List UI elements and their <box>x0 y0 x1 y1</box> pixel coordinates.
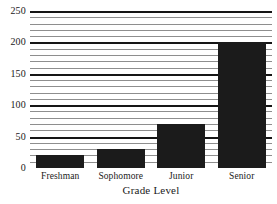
bar <box>36 155 84 168</box>
bar <box>157 124 205 168</box>
bar-chart: 050100150200250 FreshmanSophomoreJuniorS… <box>0 0 277 204</box>
x-tick-label: Junior <box>151 169 212 185</box>
y-tick-label: 0 <box>21 163 26 173</box>
y-tick-label: 250 <box>10 6 26 16</box>
plot-area <box>30 11 272 168</box>
y-axis: 050100150200250 <box>0 0 30 204</box>
x-tick-label: Freshman <box>30 169 91 185</box>
bar <box>218 42 266 168</box>
x-axis-title: Grade Level <box>30 184 272 197</box>
x-tick-label: Sophomore <box>91 169 152 185</box>
y-tick-label: 100 <box>10 100 26 110</box>
y-tick-label: 50 <box>16 132 26 142</box>
x-tick-label: Senior <box>212 169 273 185</box>
y-tick-label: 150 <box>10 69 26 79</box>
y-tick-label: 200 <box>10 37 26 47</box>
x-axis: FreshmanSophomoreJuniorSenior <box>30 169 272 185</box>
bar-series <box>30 11 272 168</box>
bar <box>97 149 145 168</box>
